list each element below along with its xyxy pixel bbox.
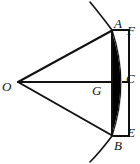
- geometry-figure: O A F C G E B: [0, 0, 140, 164]
- point-label-A: A: [114, 17, 122, 30]
- point-label-C: C: [126, 72, 135, 85]
- segment-O-A: [18, 30, 113, 82]
- point-label-F: F: [127, 24, 135, 37]
- circle-arc-extension-bottom: [90, 136, 112, 162]
- point-label-G: G: [92, 84, 101, 97]
- point-label-B: B: [114, 139, 122, 152]
- point-label-E: E: [127, 126, 135, 139]
- point-label-O: O: [2, 80, 11, 93]
- circle-arc-extension-top: [90, 2, 112, 30]
